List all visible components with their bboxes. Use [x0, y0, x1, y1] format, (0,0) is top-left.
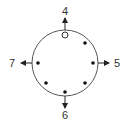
- label-7: 7: [9, 57, 15, 69]
- open-dot-top: [62, 32, 68, 38]
- dot-bottom: [63, 90, 67, 94]
- label-5: 5: [114, 57, 120, 69]
- dot-upper-right: [83, 41, 87, 45]
- main-circle: [32, 30, 98, 96]
- label-6: 6: [62, 109, 68, 121]
- dot-left: [36, 61, 40, 65]
- dot-lower-left: [44, 81, 48, 85]
- label-4: 4: [62, 5, 68, 17]
- dot-lower-right: [83, 81, 87, 85]
- dot-right: [91, 61, 95, 65]
- circle-diagram: 4 5 6 7: [0, 0, 130, 122]
